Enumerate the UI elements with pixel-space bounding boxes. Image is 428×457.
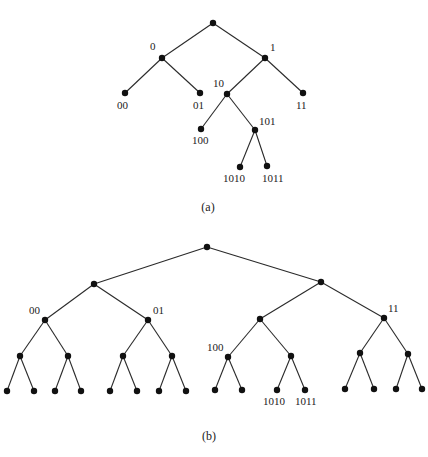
node-label: 1011 <box>262 172 284 184</box>
tree-edge <box>384 318 408 354</box>
tree-edge <box>94 284 148 320</box>
tree-edge <box>162 58 200 93</box>
tree-node-1 <box>262 55 268 61</box>
caption-b: (b) <box>202 429 216 443</box>
tree-node-01 <box>197 90 203 96</box>
tree-node-0100 <box>107 388 113 394</box>
tree-node-1000 <box>212 387 218 393</box>
tree-node-1011 <box>264 163 270 169</box>
tree-a-labels: 010001101110010110101011 <box>117 40 307 184</box>
tree-node-0111 <box>183 388 189 394</box>
tree-edge <box>228 319 260 357</box>
tree-node-root <box>210 20 216 26</box>
tree-b-nodes <box>4 244 425 394</box>
tree-edge <box>360 318 384 353</box>
tree-edge <box>94 247 207 284</box>
tree-node-1 <box>318 279 324 285</box>
tree-b-edges <box>7 247 422 391</box>
tree-node-1010 <box>237 164 243 170</box>
tree-edge <box>201 94 227 129</box>
tree-edge <box>125 58 162 93</box>
tree-edge <box>213 23 265 58</box>
tree-edge <box>228 357 242 390</box>
tree-edge <box>240 130 255 167</box>
tree-node-000 <box>17 353 23 359</box>
tree-node-011 <box>169 353 175 359</box>
tree-edge <box>255 130 267 166</box>
node-label: 100 <box>207 341 224 353</box>
tree-edge <box>277 356 291 390</box>
node-label: 0 <box>150 40 156 52</box>
tree-node-1001 <box>239 387 245 393</box>
tree-node-1100 <box>342 386 348 392</box>
tree-edge <box>172 356 186 391</box>
tree-node-0101 <box>134 388 140 394</box>
tree-edge <box>123 356 137 391</box>
tree-node-1111 <box>419 386 425 392</box>
tree-node-111 <box>405 351 411 357</box>
tree-edge <box>148 320 172 356</box>
node-label: 1010 <box>263 395 286 407</box>
tree-edge <box>55 356 68 391</box>
tree-edge <box>123 320 148 356</box>
tree-edge <box>159 356 172 391</box>
tree-b: 00011110010101011 (b) <box>4 244 425 443</box>
tree-edge <box>45 284 94 320</box>
tree-edge <box>345 353 360 389</box>
tree-edge <box>227 58 265 94</box>
tree-edge <box>162 23 213 58</box>
node-label: 1011 <box>295 395 317 407</box>
tree-edge <box>291 356 305 390</box>
node-label: 10 <box>213 77 225 89</box>
node-label: 01 <box>153 304 164 316</box>
caption-a: (a) <box>201 200 214 214</box>
tree-node-1101 <box>371 386 377 392</box>
tree-node-0011 <box>78 388 84 394</box>
tree-node-001 <box>65 353 71 359</box>
node-label: 11 <box>296 99 307 111</box>
tree-edge <box>396 354 408 389</box>
tree-edge <box>260 282 321 319</box>
tree-edge <box>20 320 45 356</box>
node-label: 1010 <box>223 172 246 184</box>
tree-node-01 <box>145 317 151 323</box>
tree-node-010 <box>120 353 126 359</box>
tree-edge <box>321 282 384 318</box>
tree-edge <box>265 58 303 93</box>
tree-edge <box>260 319 291 356</box>
node-label: 101 <box>259 115 276 127</box>
tree-node-root <box>204 244 210 250</box>
tree-edge <box>215 357 228 390</box>
tree-node-0010 <box>52 388 58 394</box>
tree-node-00 <box>122 90 128 96</box>
tree-node-11 <box>381 315 387 321</box>
tree-node-100 <box>225 354 231 360</box>
node-label: 100 <box>192 134 209 146</box>
tree-edge <box>45 320 68 356</box>
tree-node-101 <box>252 127 258 133</box>
node-label: 00 <box>29 304 41 316</box>
tree-node-100 <box>198 126 204 132</box>
tree-node-11 <box>300 90 306 96</box>
tree-node-1110 <box>393 386 399 392</box>
tree-node-00 <box>42 317 48 323</box>
tree-node-0000 <box>4 388 10 394</box>
tree-edge <box>20 356 34 391</box>
tree-node-10 <box>224 91 230 97</box>
tree-node-101 <box>288 353 294 359</box>
tree-edge <box>227 94 255 130</box>
tree-edge <box>360 353 374 389</box>
tree-node-1010 <box>274 387 280 393</box>
tree-node-0001 <box>31 388 37 394</box>
tree-node-0 <box>159 55 165 61</box>
tree-node-10 <box>257 316 263 322</box>
node-label: 11 <box>388 302 399 314</box>
tree-node-0110 <box>156 388 162 394</box>
tree-node-110 <box>357 350 363 356</box>
tree-node-0 <box>91 281 97 287</box>
tree-node-1011 <box>302 387 308 393</box>
tree-a: 010001101110010110101011 (a) <box>117 20 307 214</box>
node-label: 1 <box>270 41 276 53</box>
binary-tree-diagram: 010001101110010110101011 (a) 00011110010… <box>0 0 428 457</box>
node-label: 01 <box>193 99 204 111</box>
